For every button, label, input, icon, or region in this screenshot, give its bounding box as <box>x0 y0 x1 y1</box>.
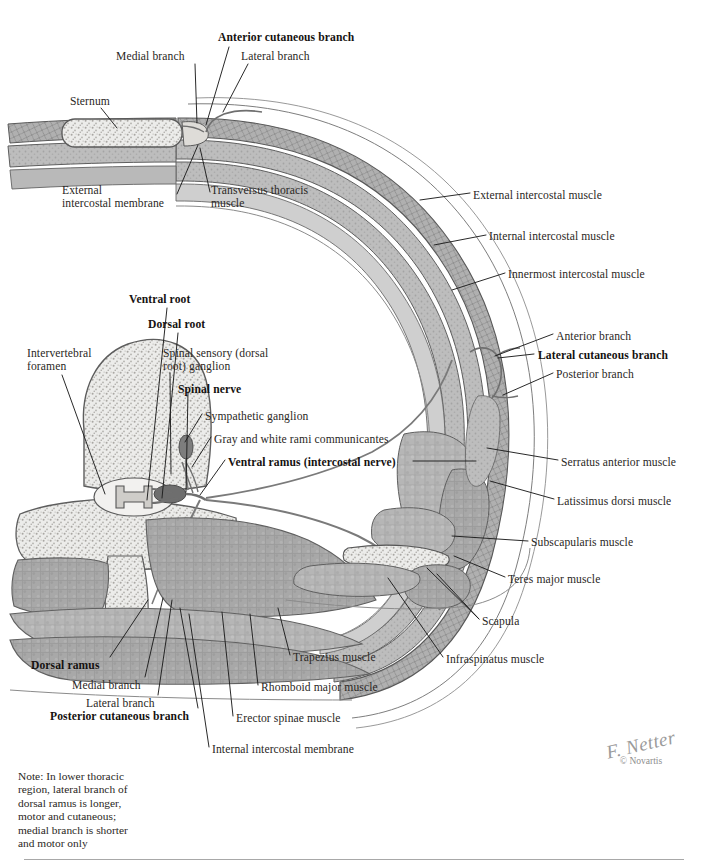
label-dorsal-root: Dorsal root <box>148 319 205 332</box>
label-lateral-cutaneous-branch: Lateral cutaneous branch <box>538 350 668 363</box>
infraspinatus <box>294 563 420 596</box>
label-internal-intercostal-membrane: Internal intercostal membrane <box>212 744 354 757</box>
label-anterior-branch: Anterior branch <box>556 331 631 344</box>
netter-plate-canvas: Anterior cutaneous branchMedial branchLa… <box>0 0 708 867</box>
label-intervertebral-foramen: Intervertebral foramen <box>27 348 91 373</box>
label-latissimus-dorsi-muscle: Latissimus dorsi muscle <box>557 496 671 509</box>
label-external-intercostal-membrane: External intercostal membrane <box>62 185 164 210</box>
label-scapula: Scapula <box>482 616 519 629</box>
label-subscapularis-muscle: Subscapularis muscle <box>531 537 633 550</box>
label-posterior-cutaneous-branch: Posterior cutaneous branch <box>50 711 189 724</box>
label-infraspinatus-muscle: Infraspinatus muscle <box>446 654 544 667</box>
label-dorsal-ramus: Dorsal ramus <box>31 660 100 673</box>
label-anterior-cutaneous-branch: Anterior cutaneous branch <box>218 32 354 45</box>
label-posterior-branch: Posterior branch <box>556 369 634 382</box>
label-sympathetic-ganglion: Sympathetic ganglion <box>205 411 308 424</box>
plate-note: Note: In lower thoracic region, lateral … <box>18 770 218 850</box>
erector-spinae-left <box>12 558 109 617</box>
footer-divider-rule <box>24 859 684 860</box>
label-ventral-root: Ventral root <box>129 294 190 307</box>
sympathetic-ganglion <box>179 435 193 459</box>
label-sternum: Sternum <box>70 96 110 109</box>
label-rhomboid-major-muscle: Rhomboid major muscle <box>261 682 378 695</box>
label-medial-branch-top: Medial branch <box>116 51 185 64</box>
label-transversus-thoracis-muscle: Transversus thoracis muscle <box>211 185 308 210</box>
label-internal-intercostal-muscle: Internal intercostal muscle <box>489 231 615 244</box>
label-lateral-branch-top: Lateral branch <box>241 51 310 64</box>
label-ventral-ramus: Ventral ramus (intercostal nerve) <box>228 457 396 470</box>
label-medial-branch-bottom: Medial branch <box>72 680 141 693</box>
sternum-bone <box>62 119 182 147</box>
label-trapezius-muscle: Trapezius muscle <box>293 652 376 665</box>
label-spinal-nerve: Spinal nerve <box>178 384 241 397</box>
label-external-intercostal-muscle: External intercostal muscle <box>473 190 602 203</box>
label-lateral-branch-bottom: Lateral branch <box>86 698 155 711</box>
artist-signature: F. Netter © Novartis <box>586 734 696 766</box>
label-gray-white-rami: Gray and white rami communicantes <box>214 434 389 447</box>
spinal-nerve-trunk <box>186 494 206 500</box>
label-teres-major-muscle: Teres major muscle <box>508 574 600 587</box>
label-innermost-intercostal-muscle: Innermost intercostal muscle <box>508 269 645 282</box>
leader-lateral-cutaneous-branch <box>498 354 534 358</box>
label-spinal-sensory-ganglion: Spinal sensory (dorsal root) ganglion <box>163 348 268 373</box>
leader-medial-branch-top <box>195 64 197 123</box>
label-serratus-anterior-muscle: Serratus anterior muscle <box>561 457 676 470</box>
label-erector-spinae-muscle: Erector spinae muscle <box>236 713 340 726</box>
